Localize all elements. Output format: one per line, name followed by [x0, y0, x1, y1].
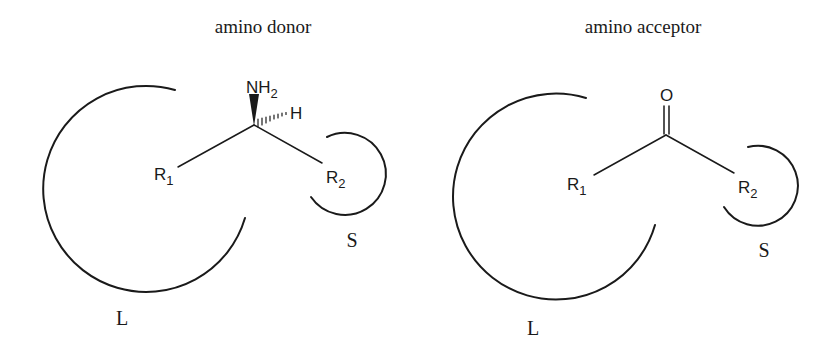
bond-c-r2	[254, 125, 322, 163]
hashed-bond-h	[258, 113, 286, 128]
atom-h: H	[290, 104, 302, 123]
atom-r2: R2	[326, 168, 346, 191]
bond-c-r1	[178, 125, 254, 167]
small-pocket-arc	[311, 133, 386, 215]
atom-r1: R1	[567, 175, 587, 198]
atom-r1: R1	[154, 165, 174, 188]
small-pocket-label: S	[758, 239, 769, 261]
large-pocket-arc	[453, 94, 655, 300]
amino-donor-title: amino donor	[215, 16, 312, 37]
large-pocket-label: L	[527, 317, 539, 339]
small-pocket-arc	[724, 146, 798, 226]
small-pocket-label: S	[346, 229, 357, 251]
bond-c-r2	[666, 135, 734, 173]
amino-acceptor-title: amino acceptor	[585, 16, 702, 37]
large-pocket-label: L	[116, 307, 128, 329]
amino-donor-panel: amino donor L S NH2 H R1 R2	[43, 16, 386, 329]
atom-o: O	[660, 86, 673, 105]
large-pocket-arc	[43, 86, 245, 292]
bond-c-r1	[594, 135, 666, 175]
amino-acceptor-panel: amino acceptor L S O R1 R2	[453, 16, 798, 339]
transaminase-binding-diagram: amino donor L S NH2 H R1 R2 amino acc	[0, 0, 832, 349]
atom-r2: R2	[738, 178, 758, 201]
